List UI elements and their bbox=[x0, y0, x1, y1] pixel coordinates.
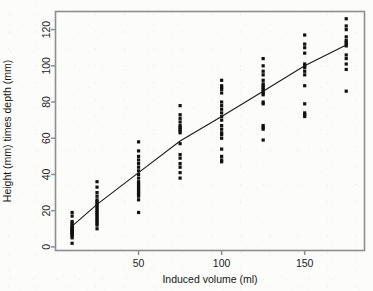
data-point bbox=[303, 33, 306, 36]
data-point bbox=[303, 84, 306, 87]
data-point bbox=[220, 111, 223, 114]
data-point bbox=[262, 124, 265, 127]
x-axis-label: Induced volume (ml) bbox=[162, 273, 257, 285]
data-point bbox=[345, 53, 348, 56]
x-tick-label: 150 bbox=[296, 257, 314, 269]
data-point bbox=[220, 108, 223, 111]
data-point bbox=[262, 73, 265, 76]
data-point bbox=[179, 162, 182, 165]
data-point bbox=[179, 120, 182, 123]
data-point bbox=[179, 171, 182, 174]
data-point bbox=[137, 158, 140, 161]
data-point bbox=[71, 211, 74, 214]
data-point bbox=[262, 100, 265, 103]
data-point bbox=[179, 166, 182, 169]
data-point bbox=[137, 162, 140, 165]
data-point bbox=[71, 242, 74, 245]
y-tick-label: 20 bbox=[41, 205, 53, 217]
data-point bbox=[95, 198, 98, 201]
data-point bbox=[220, 124, 223, 127]
data-point bbox=[303, 52, 306, 55]
data-point bbox=[345, 39, 348, 42]
data-point bbox=[95, 186, 98, 189]
data-point bbox=[220, 119, 223, 122]
data-point bbox=[137, 149, 140, 152]
x-tick-label: 50 bbox=[133, 257, 145, 269]
data-point bbox=[345, 62, 348, 65]
chart-figure: 020406080100120 50100150 Induced volume … bbox=[0, 0, 373, 291]
data-point bbox=[137, 166, 140, 169]
data-point bbox=[220, 137, 223, 140]
data-point bbox=[345, 68, 348, 71]
data-point bbox=[220, 79, 223, 82]
data-point bbox=[345, 90, 348, 93]
data-point bbox=[220, 131, 223, 134]
data-point bbox=[220, 104, 223, 107]
y-tick-label: 40 bbox=[41, 168, 53, 180]
data-point bbox=[95, 227, 98, 230]
data-point bbox=[137, 176, 140, 179]
data-point bbox=[262, 138, 265, 141]
data-point bbox=[303, 42, 306, 45]
data-point bbox=[345, 17, 348, 20]
data-point bbox=[262, 57, 265, 60]
scatter-plot: 020406080100120 50100150 Induced volume … bbox=[0, 0, 373, 291]
data-point bbox=[95, 195, 98, 198]
data-point bbox=[345, 57, 348, 60]
y-tick-label: 80 bbox=[41, 96, 53, 108]
data-point bbox=[137, 155, 140, 158]
data-point bbox=[71, 220, 74, 223]
data-point bbox=[262, 70, 265, 73]
data-point bbox=[179, 113, 182, 116]
data-point bbox=[95, 191, 98, 194]
data-point bbox=[220, 148, 223, 151]
data-point bbox=[179, 176, 182, 179]
data-point bbox=[262, 82, 265, 85]
y-tick-label: 60 bbox=[41, 132, 53, 144]
data-point bbox=[220, 158, 223, 161]
data-point bbox=[179, 157, 182, 160]
data-point bbox=[345, 28, 348, 31]
data-point bbox=[303, 46, 306, 49]
y-tick-label: 0 bbox=[41, 244, 53, 250]
data-point bbox=[179, 142, 182, 145]
y-tick-label: 120 bbox=[41, 21, 53, 39]
data-point bbox=[220, 91, 223, 94]
data-point bbox=[179, 104, 182, 107]
data-point bbox=[303, 102, 306, 105]
data-point bbox=[179, 117, 182, 120]
data-point bbox=[179, 153, 182, 156]
data-point bbox=[345, 24, 348, 27]
data-point bbox=[137, 180, 140, 183]
data-point bbox=[345, 35, 348, 38]
data-point bbox=[220, 128, 223, 131]
data-point bbox=[137, 140, 140, 143]
x-tick-label: 100 bbox=[213, 257, 231, 269]
data-point bbox=[262, 79, 265, 82]
data-point bbox=[262, 64, 265, 67]
data-point bbox=[220, 100, 223, 103]
y-axis-label: Height (mm) times depth (mm) bbox=[1, 60, 13, 202]
y-tick-label: 100 bbox=[41, 57, 53, 75]
data-point bbox=[220, 155, 223, 158]
data-point bbox=[303, 70, 306, 73]
data-point bbox=[179, 124, 182, 127]
data-point bbox=[220, 84, 223, 87]
data-point bbox=[303, 111, 306, 114]
data-point bbox=[137, 198, 140, 201]
data-point bbox=[95, 180, 98, 183]
data-point bbox=[137, 211, 140, 214]
data-point bbox=[303, 73, 306, 76]
data-point bbox=[71, 215, 74, 218]
